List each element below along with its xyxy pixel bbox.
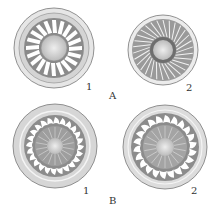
label-group-a: A xyxy=(109,91,116,101)
disc-b2 xyxy=(123,105,207,189)
disc-a2 xyxy=(128,15,198,85)
label-a2: 2 xyxy=(186,83,192,93)
figure-illustration xyxy=(0,0,215,211)
label-b2: 2 xyxy=(191,186,197,196)
disc-b1 xyxy=(13,104,97,188)
label-a1: 1 xyxy=(86,82,92,92)
label-b1: 1 xyxy=(83,186,89,196)
disc-a1 xyxy=(14,8,94,88)
label-group-b: B xyxy=(109,196,116,206)
